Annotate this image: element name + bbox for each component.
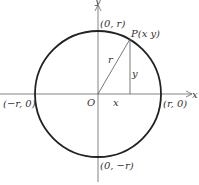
y-axis-label: y — [94, 0, 101, 6]
point-label: P(x y) — [130, 28, 160, 39]
left-intercept-label: (−r, 0) — [3, 98, 36, 109]
right-intercept-label: (r, 0) — [163, 98, 187, 109]
circle-diagram: y x O (0, r) (0, −r) (−r, 0) (r, 0) P(x … — [0, 0, 199, 185]
origin-label: O — [87, 97, 95, 108]
radius-segment — [98, 39, 130, 94]
radius-label: r — [108, 54, 114, 65]
vertical-segment-label: y — [131, 68, 138, 79]
x-axis-label: x — [192, 89, 198, 100]
top-intercept-label: (0, r) — [100, 18, 125, 29]
bottom-intercept-label: (0, −r) — [100, 160, 134, 171]
horizontal-segment-label: x — [113, 97, 119, 108]
